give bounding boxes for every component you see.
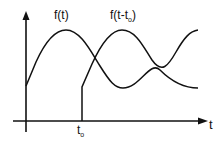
curve2-label: f(t-to) [110,9,136,21]
curve-f-t-shifted [82,30,198,121]
unused [82,30,185,121]
time-shift-diagram: f(t) f(t-to) t to [0,0,222,145]
shift-label-sub: o [80,131,84,138]
curve2-label-main: f(t-t [110,8,128,22]
shift-label: to [77,124,84,136]
curve1-label: f(t) [54,9,69,21]
curve2-label-close: ) [132,8,136,22]
x-axis-arrow-icon [198,118,208,125]
x-axis-label: t [209,118,213,131]
y-axis-arrow-icon [23,11,30,20]
curve2-label-sub: o [128,16,132,23]
